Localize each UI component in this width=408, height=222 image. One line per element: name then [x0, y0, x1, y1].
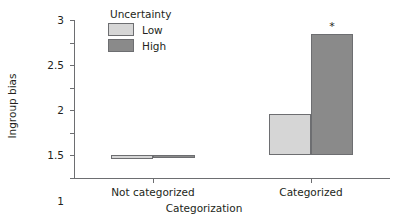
- legend-swatch-low: [108, 23, 134, 36]
- legend-label-low: Low: [142, 24, 163, 36]
- bar-high-not-categorized: [153, 155, 195, 158]
- y-tick-label: 2: [57, 104, 64, 116]
- x-tick-label: Not categorized: [111, 186, 194, 198]
- y-axis-title: Ingroup bias: [6, 58, 20, 154]
- legend: Uncertainty Low High: [108, 8, 171, 55]
- y-tick-mark: 0.5: [70, 133, 74, 134]
- legend-item-low: Low: [108, 23, 171, 36]
- significance-asterisk: *: [329, 21, 335, 32]
- y-tick-label: 1.5: [47, 149, 64, 161]
- y-tick-mark: −0.5: [70, 178, 74, 179]
- y-tick-mark: 0: [70, 155, 74, 156]
- y-tick-label: 1: [57, 195, 64, 207]
- bar-low-not-categorized: [111, 155, 153, 158]
- x-tick-mark: [311, 178, 312, 183]
- bar-low-categorized: [269, 114, 311, 156]
- legend-swatch-high: [108, 39, 134, 52]
- y-tick-mark: 2.5: [70, 43, 74, 44]
- y-tick-mark: 2: [70, 65, 74, 66]
- legend-item-high: High: [108, 39, 171, 52]
- legend-label-high: High: [142, 40, 166, 52]
- legend-title: Uncertainty: [108, 8, 171, 20]
- y-tick-mark: 1.5: [70, 88, 74, 89]
- y-tick-mark: 1: [70, 110, 74, 111]
- x-tick-mark: [153, 178, 154, 183]
- y-tick-label: 2.5: [47, 59, 64, 71]
- x-axis-line: [74, 178, 390, 179]
- chart-figure: Ingroup bias Categorization 32.521.510.5…: [0, 0, 408, 222]
- bar-high-categorized: [311, 34, 353, 156]
- y-tick-mark: 3: [70, 20, 74, 21]
- y-tick-label: 3: [57, 14, 64, 26]
- x-tick-label: Categorized: [279, 186, 342, 198]
